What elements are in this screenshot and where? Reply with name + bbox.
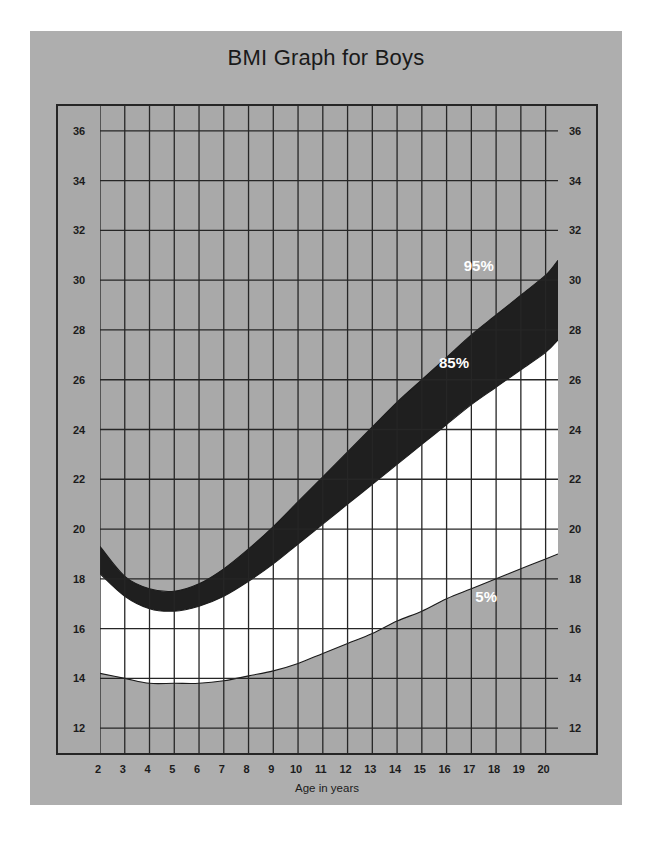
y-axis-tick-left: 24 [58,424,100,436]
y-axis-tick-right: 20 [554,523,596,535]
y-axis-tick-left: 28 [58,324,100,336]
y-axis-tick-right: 30 [554,274,596,286]
y-axis-right: 36343230282624222018161412 [552,106,596,753]
page-title: BMI Graph for Boys [30,45,622,71]
x-axis-tick: 18 [488,763,500,775]
percentile-label-5pct: 5% [475,588,497,605]
x-axis-tick: 14 [389,763,401,775]
bmi-percentile-chart [100,106,558,753]
y-axis-tick-right: 18 [554,573,596,585]
y-axis-tick-right: 28 [554,324,596,336]
y-axis-tick-left: 36 [58,125,100,137]
y-axis-tick-right: 36 [554,125,596,137]
x-axis-tick: 8 [243,763,249,775]
y-axis-tick-right: 16 [554,623,596,635]
x-axis: 234567891011121314151617181920 [56,763,598,781]
y-axis-tick-right: 24 [554,424,596,436]
y-axis-tick-right: 26 [554,374,596,386]
percentile-label-85pct: 85% [439,354,469,371]
page-root: BMI Graph for Boys 363432302826242220181… [0,0,652,841]
x-axis-tick: 3 [120,763,126,775]
y-axis-tick-right: 32 [554,224,596,236]
x-axis-tick: 20 [537,763,549,775]
x-axis-tick: 2 [95,763,101,775]
y-axis-left: 36343230282624222018161412 [58,106,102,753]
x-axis-tick: 6 [194,763,200,775]
x-axis-tick: 19 [513,763,525,775]
x-axis-tick: 11 [315,763,327,775]
y-axis-tick-left: 12 [58,722,100,734]
y-axis-tick-left: 22 [58,473,100,485]
x-axis-label: Age in years [56,782,598,794]
x-axis-tick: 15 [414,763,426,775]
y-axis-tick-right: 14 [554,672,596,684]
x-axis-tick: 4 [144,763,150,775]
y-axis-tick-left: 18 [58,573,100,585]
x-axis-tick: 7 [219,763,225,775]
y-axis-tick-right: 22 [554,473,596,485]
y-axis-tick-left: 14 [58,672,100,684]
x-axis-tick: 16 [438,763,450,775]
y-axis-tick-left: 26 [58,374,100,386]
y-axis-tick-left: 20 [58,523,100,535]
plot-area [100,106,558,753]
chart-card: BMI Graph for Boys 363432302826242220181… [30,31,622,805]
percentile-label-95pct: 95% [464,257,494,274]
x-axis-tick: 10 [290,763,302,775]
y-axis-tick-left: 32 [58,224,100,236]
plot-frame: 36343230282624222018161412 3634323028262… [56,104,598,755]
y-axis-tick-left: 34 [58,175,100,187]
x-axis-tick: 17 [463,763,475,775]
x-axis-tick: 5 [169,763,175,775]
x-axis-tick: 9 [268,763,274,775]
y-axis-tick-right: 12 [554,722,596,734]
x-axis-tick: 13 [364,763,376,775]
y-axis-tick-left: 30 [58,274,100,286]
x-axis-tick: 12 [339,763,351,775]
y-axis-tick-left: 16 [58,623,100,635]
y-axis-tick-right: 34 [554,175,596,187]
